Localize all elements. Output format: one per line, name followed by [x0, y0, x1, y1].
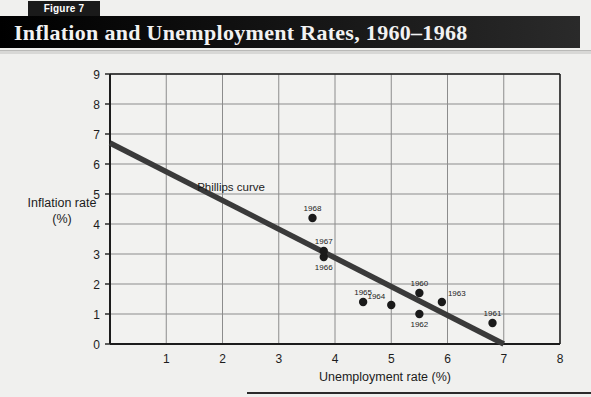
y-axis-title-line1: Inflation rate	[28, 196, 97, 210]
y-tick-label: 4	[93, 218, 100, 232]
y-tick-label: 8	[93, 98, 100, 112]
data-point-1962[interactable]	[415, 310, 423, 318]
x-tick-label: 5	[388, 352, 395, 366]
y-tick-label: 3	[93, 248, 100, 262]
x-tick-label: 4	[332, 352, 339, 366]
data-point-1967[interactable]	[320, 247, 328, 255]
bottom-divider	[247, 392, 591, 397]
data-point-label-1967: 1967	[315, 237, 333, 246]
data-point-label-1966: 1966	[315, 263, 333, 272]
data-point-label-1961: 1961	[484, 309, 502, 318]
data-point-1960[interactable]	[415, 289, 423, 297]
chart-annotations: Phillips curve	[197, 181, 265, 193]
header-divider	[0, 50, 591, 54]
data-point-1968[interactable]	[308, 214, 316, 222]
annotation-phillips-curve: Phillips curve	[197, 181, 265, 193]
y-tick-label: 6	[93, 158, 100, 172]
chart-container: 012345678912345678 196019611962196319641…	[0, 56, 591, 397]
figure-number-badge: Figure 7	[28, 1, 100, 16]
phillips-curve-chart: 012345678912345678 196019611962196319641…	[0, 56, 591, 397]
x-axis-title: Unemployment rate (%)	[319, 370, 451, 384]
data-point-label-1963: 1963	[448, 289, 466, 298]
data-point-label-1960: 1960	[410, 279, 428, 288]
y-axis-title-line2: (%)	[52, 212, 71, 226]
x-tick-label: 8	[557, 352, 564, 366]
data-point-label-1965: 1965	[354, 288, 372, 297]
data-point-1964[interactable]	[387, 301, 395, 309]
data-point-1965[interactable]	[359, 298, 367, 306]
data-point-label-1968: 1968	[304, 204, 322, 213]
x-tick-label: 6	[444, 352, 451, 366]
y-tick-label: 0	[93, 338, 100, 352]
x-tick-label: 1	[163, 352, 170, 366]
y-tick-label: 2	[93, 278, 100, 292]
x-tick-label: 2	[219, 352, 226, 366]
y-tick-label: 1	[93, 308, 100, 322]
data-point-1963[interactable]	[438, 298, 446, 306]
x-tick-label: 3	[275, 352, 282, 366]
data-point-label-1962: 1962	[410, 320, 428, 329]
x-tick-label: 7	[500, 352, 507, 366]
y-tick-label: 7	[93, 128, 100, 142]
figure-header: Figure 7 Inflation and Unemployment Rate…	[0, 0, 591, 56]
data-point-1961[interactable]	[488, 319, 496, 327]
page-title: Inflation and Unemployment Rates, 1960–1…	[14, 19, 468, 46]
y-tick-label: 9	[93, 68, 100, 82]
